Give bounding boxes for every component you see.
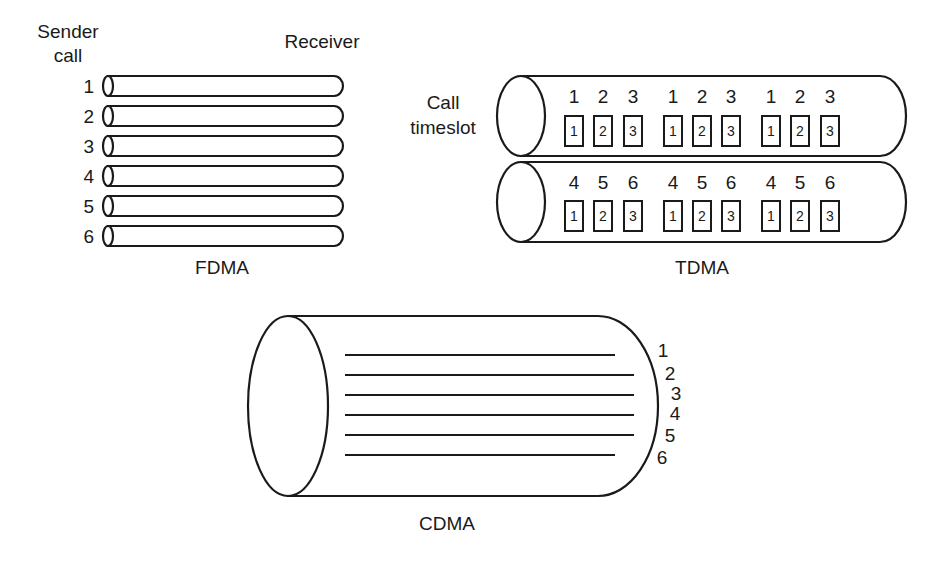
- fdma-caption: FDMA: [195, 257, 249, 278]
- tdma-caption: TDMA: [675, 257, 729, 278]
- fdma-channel-pipe: 5: [83, 196, 343, 217]
- cdma-channel-number: 6: [657, 447, 668, 468]
- timeslot-number: 3: [629, 208, 637, 224]
- fdma-channel-number: 5: [83, 196, 94, 217]
- fdma-channel-number: 3: [83, 136, 94, 157]
- timeslot-number: 2: [698, 208, 706, 224]
- timeslot-number: 1: [669, 123, 677, 139]
- timeslot-number: 1: [767, 123, 775, 139]
- fdma-channel-number: 6: [83, 226, 94, 247]
- timeslot-number: 1: [669, 208, 677, 224]
- call-number: 2: [795, 86, 806, 107]
- fdma-section: Sender call Receiver 1 2 3 4: [37, 21, 360, 278]
- timeslot-number: 1: [570, 208, 578, 224]
- fdma-channel-pipe: 2: [83, 106, 343, 127]
- timeslot-number: 2: [796, 208, 804, 224]
- call-number: 6: [825, 172, 836, 193]
- call-number: 2: [598, 86, 609, 107]
- fdma-channel-number: 1: [83, 76, 94, 97]
- call-number: 4: [766, 172, 777, 193]
- call-number: 6: [628, 172, 639, 193]
- timeslot-number: 3: [629, 123, 637, 139]
- call-number: 3: [825, 86, 836, 107]
- fdma-channel-number: 2: [83, 106, 94, 127]
- cdma-channel-number: 3: [671, 383, 682, 404]
- timeslot-number: 3: [826, 123, 834, 139]
- call-number: 1: [668, 86, 679, 107]
- fdma-channel-pipe: 3: [83, 136, 343, 157]
- call-number: 1: [569, 86, 580, 107]
- call-number: 3: [628, 86, 639, 107]
- timeslot-number: 2: [796, 123, 804, 139]
- timeslot-number: 2: [698, 123, 706, 139]
- call-number: 5: [598, 172, 609, 193]
- call-number: 5: [697, 172, 708, 193]
- fdma-channel-pipe: 1: [83, 76, 343, 97]
- tdma-pipe: 4 5 6 4 5 6 4 5 6 1: [497, 162, 906, 242]
- timeslot-number: 1: [767, 208, 775, 224]
- cdma-caption: CDMA: [419, 513, 475, 534]
- cdma-channel-number: 5: [665, 425, 676, 446]
- cdma-channel-number: 1: [658, 340, 669, 361]
- call-number: 4: [569, 172, 580, 193]
- call-number: 2: [697, 86, 708, 107]
- timeslot-number: 3: [727, 123, 735, 139]
- cdma-channel-number: 2: [665, 363, 676, 384]
- fdma-channel-pipe: 6: [83, 226, 343, 247]
- multiple-access-diagram: Sender call Receiver 1 2 3 4: [0, 0, 947, 561]
- timeslot-number: 1: [570, 123, 578, 139]
- sender-label: Sender: [37, 21, 99, 42]
- cdma-section: 1 2 3 4 5 6 CDMA: [248, 316, 681, 534]
- tdma-pipe: 1 2 3 1 2 3 1 2 3 1: [497, 76, 906, 156]
- tdma-section: Call timeslot 1 2 3 1 2 3 1 2 3: [410, 76, 906, 278]
- timeslot-label: timeslot: [410, 117, 476, 138]
- cdma-channel-number: 4: [670, 403, 681, 424]
- receiver-label: Receiver: [285, 31, 361, 52]
- call-number: 3: [726, 86, 737, 107]
- fdma-channel-number: 4: [83, 166, 94, 187]
- call-number: 4: [668, 172, 679, 193]
- call-number: 6: [726, 172, 737, 193]
- timeslot-number: 2: [599, 123, 607, 139]
- fdma-channel-pipe: 4: [83, 166, 343, 187]
- timeslot-number: 3: [826, 208, 834, 224]
- timeslot-number: 3: [727, 208, 735, 224]
- call-number: 5: [795, 172, 806, 193]
- call-label: Call: [427, 92, 460, 113]
- timeslot-number: 2: [599, 208, 607, 224]
- call-label: call: [54, 45, 83, 66]
- call-number: 1: [766, 86, 777, 107]
